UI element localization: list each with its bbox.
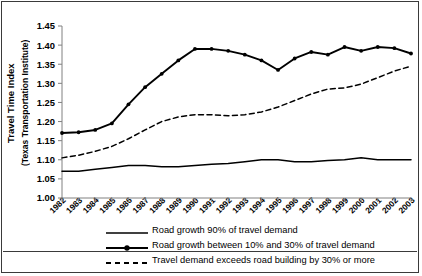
legend-marker-sample	[124, 245, 129, 250]
solid-line-marker-swatch	[104, 240, 150, 252]
series-line	[62, 158, 411, 171]
legend-item: Road growth between 10% and 30% of trave…	[104, 239, 375, 253]
series-line	[62, 66, 411, 158]
series-marker	[260, 59, 264, 63]
chart-series	[62, 158, 411, 171]
series-marker	[127, 102, 131, 106]
legend-item: Road growth 90% of travel demand	[104, 224, 298, 238]
series-marker	[376, 45, 380, 49]
series-marker	[60, 131, 64, 135]
series-marker	[160, 72, 164, 76]
series-marker	[309, 50, 313, 54]
chart-plot-area: Travel Time Index (Texas Transportation …	[2, 2, 419, 220]
y-axis-tick-label: 1.25	[37, 97, 55, 108]
series-marker	[243, 53, 247, 57]
y-axis-tick-labels: 1.001.051.101.151.201.251.301.351.401.45	[37, 20, 55, 203]
y-axis-tick-label: 1.35	[37, 59, 55, 70]
solid-line-swatch	[104, 225, 150, 237]
series-marker	[293, 57, 297, 61]
chart-series	[62, 66, 411, 158]
line-chart-svg: 1.001.051.101.151.201.251.301.351.401.45…	[2, 2, 419, 220]
chart-series-layer	[60, 45, 413, 171]
chart-series	[60, 45, 413, 135]
y-axis-tick-label: 1.05	[37, 173, 55, 184]
chart-frame: Travel Time Index (Texas Transportation …	[1, 1, 419, 273]
chart-legend: Road growth 90% of travel demandRoad gro…	[4, 221, 418, 271]
legend-item-label: Travel demand exceeds road building by 3…	[152, 256, 375, 265]
legend-item-label: Road growth 90% of travel demand	[152, 226, 298, 235]
series-marker	[392, 46, 396, 50]
dashed-line-swatch	[104, 255, 150, 267]
series-marker	[409, 52, 413, 56]
series-marker	[359, 49, 363, 53]
legend-item: Travel demand exceeds road building by 3…	[104, 254, 375, 268]
series-marker	[210, 47, 214, 51]
y-axis-tick-label: 1.40	[37, 40, 55, 51]
y-axis-tick-label: 1.10	[37, 154, 55, 165]
series-marker	[93, 128, 97, 132]
series-marker	[326, 53, 330, 57]
series-marker	[226, 49, 230, 53]
series-line	[62, 47, 411, 133]
series-marker	[343, 45, 347, 49]
series-marker	[110, 122, 114, 126]
y-axis-tick-label: 1.30	[37, 78, 55, 89]
series-marker	[176, 59, 180, 63]
series-marker	[276, 68, 280, 72]
y-axis-tick-label: 1.45	[37, 20, 55, 31]
legend-item-label: Road growth between 10% and 30% of trave…	[152, 241, 375, 250]
series-marker	[77, 130, 81, 134]
y-axis-tick-label: 1.20	[37, 116, 55, 127]
series-marker	[193, 47, 197, 51]
y-axis-tick-label: 1.15	[37, 135, 55, 146]
y-axis-tick-label: 1.00	[37, 192, 55, 203]
series-marker	[143, 85, 147, 89]
